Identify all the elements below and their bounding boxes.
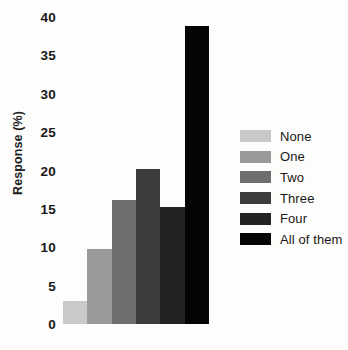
y-axis-tick-label: 20 (2, 163, 56, 178)
y-axis-tick-label: 25 (2, 125, 56, 140)
y-axis-tick-label: 10 (2, 240, 56, 255)
legend-label: Four (280, 211, 307, 226)
plot-area (63, 17, 209, 324)
legend-item: One (240, 147, 348, 168)
bar (87, 249, 111, 324)
legend-swatch (240, 151, 271, 163)
bar (160, 207, 184, 324)
legend-swatch (240, 130, 271, 142)
legend-item: Three (240, 188, 348, 209)
y-axis-tick-label: 35 (2, 48, 56, 63)
bar-series (63, 17, 209, 324)
bar (63, 301, 87, 324)
legend-swatch (240, 171, 271, 183)
legend-label: Two (280, 170, 304, 185)
legend-swatch (240, 213, 271, 225)
y-axis-tick-label: 15 (2, 201, 56, 216)
y-axis-tick-label: 5 (2, 278, 56, 293)
legend-item: Two (240, 167, 348, 188)
legend-swatch (240, 192, 271, 204)
legend-item: None (240, 126, 348, 147)
chart-legend: NoneOneTwoThreeFourAll of them (240, 126, 348, 250)
bar (136, 169, 160, 324)
bar-chart-figure: Response (%) 0510152025303540 NoneOneTwo… (0, 0, 348, 350)
legend-label: One (280, 149, 305, 164)
bar (112, 200, 136, 324)
legend-label: All of them (280, 232, 343, 247)
legend-swatch (240, 233, 271, 245)
legend-item: Four (240, 208, 348, 229)
y-axis-tick-label: 30 (2, 86, 56, 101)
legend-label: None (280, 129, 311, 144)
y-axis-tick-labels: 0510152025303540 (0, 0, 60, 350)
bar (185, 26, 209, 324)
y-axis-tick-label: 0 (2, 317, 56, 332)
legend-item: All of them (240, 229, 348, 250)
y-axis-tick-label: 40 (2, 10, 56, 25)
legend-label: Three (280, 191, 314, 206)
